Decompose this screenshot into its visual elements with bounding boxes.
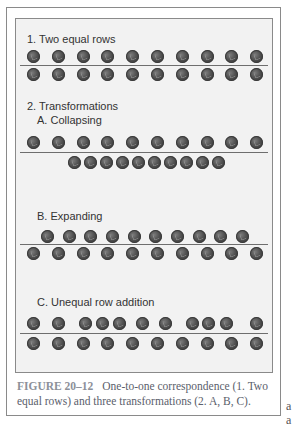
coin-icon (176, 50, 189, 63)
coin-icon (77, 50, 90, 63)
coin-icon (79, 317, 92, 330)
coin-icon (151, 337, 164, 350)
coin-icon (63, 230, 76, 243)
coin-icon (201, 337, 214, 350)
figure-caption: FIGURE 20–12 One-to-one correspondence (… (17, 379, 279, 408)
coin-icon (159, 317, 172, 330)
stray-mark: a (286, 399, 291, 414)
coin-icon (116, 156, 129, 169)
row-divider (20, 65, 268, 66)
coin-icon (100, 156, 113, 169)
coin-icon (236, 230, 249, 243)
coin-icon (176, 68, 189, 81)
coin-icon (113, 317, 126, 330)
row-divider (20, 152, 268, 153)
coin-icon (250, 50, 263, 63)
coin-icon (101, 50, 114, 63)
coin-icon (27, 50, 40, 63)
coin-icon (101, 337, 114, 350)
coin-icon (225, 247, 238, 260)
coin-icon (214, 230, 227, 243)
coin-icon (250, 247, 263, 260)
coin-icon (52, 50, 65, 63)
coin-icon (176, 337, 189, 350)
coin-icon (164, 156, 177, 169)
coin-icon (77, 68, 90, 81)
coin-icon (126, 247, 139, 260)
section-title-equal: 1. Two equal rows (27, 33, 115, 45)
coin-icon (151, 136, 164, 149)
figure-label: FIGURE 20–12 (17, 380, 93, 392)
stray-mark: a (286, 413, 291, 428)
coin-icon (101, 68, 114, 81)
coin-icon (77, 247, 90, 260)
coin-icon (193, 230, 206, 243)
coin-icon (101, 247, 114, 260)
coin-icon (77, 337, 90, 350)
coin-icon (52, 337, 65, 350)
coin-icon (151, 50, 164, 63)
coin-icon (151, 247, 164, 260)
coin-icon (225, 136, 238, 149)
coin-icon (126, 68, 139, 81)
coin-icon (52, 247, 65, 260)
coin-icon (84, 230, 97, 243)
coin-icon (126, 136, 139, 149)
coin-icon (41, 230, 54, 243)
coin-icon (136, 317, 149, 330)
coin-icon (196, 156, 209, 169)
coin-icon (101, 136, 114, 149)
coin-icon (132, 156, 145, 169)
coin-icon (220, 317, 233, 330)
coin-icon (176, 136, 189, 149)
section-title-expanding: B. Expanding (37, 210, 102, 222)
row-divider (20, 333, 268, 334)
coin-icon (52, 136, 65, 149)
coin-icon (27, 136, 40, 149)
coin-icon (27, 337, 40, 350)
coin-icon (186, 317, 199, 330)
coin-icon (77, 136, 90, 149)
coin-icon (148, 156, 161, 169)
coin-icon (250, 337, 263, 350)
coin-icon (96, 317, 109, 330)
coin-icon (106, 230, 119, 243)
coin-icon (250, 136, 263, 149)
coin-icon (176, 247, 189, 260)
coin-icon (52, 317, 65, 330)
coin-icon (202, 317, 215, 330)
coin-icon (52, 68, 65, 81)
coin-icon (201, 68, 214, 81)
coin-icon (126, 50, 139, 63)
coin-icon (151, 68, 164, 81)
row-divider (20, 244, 268, 245)
coin-icon (225, 50, 238, 63)
coin-icon (250, 317, 263, 330)
coin-icon (201, 50, 214, 63)
coin-icon (128, 230, 141, 243)
coin-icon (27, 247, 40, 260)
section-title-unequal: C. Unequal row addition (37, 296, 154, 308)
coin-icon (171, 230, 184, 243)
coin-icon (27, 317, 40, 330)
coin-icon (84, 156, 97, 169)
coin-icon (225, 337, 238, 350)
coin-icon (180, 156, 193, 169)
section-heading: 2. Transformations (27, 100, 118, 112)
coin-icon (201, 247, 214, 260)
coin-icon (27, 68, 40, 81)
coin-icon (201, 136, 214, 149)
coin-icon (149, 230, 162, 243)
section-title-collapsing: A. Collapsing (37, 114, 102, 126)
coin-icon (126, 337, 139, 350)
coin-icon (250, 68, 263, 81)
coin-icon (68, 156, 81, 169)
coin-icon (212, 156, 225, 169)
coin-icon (225, 68, 238, 81)
